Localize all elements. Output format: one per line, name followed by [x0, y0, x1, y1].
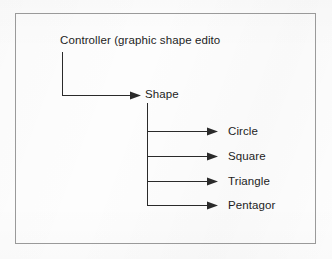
- node-controller-label: Controller (graphic shape edito: [60, 35, 220, 47]
- node-square-label: Square: [228, 151, 266, 163]
- node-pentagon-label: Pentagor: [228, 200, 275, 212]
- diagram-page: Controller (graphic shape edito Shape Ci…: [0, 0, 332, 259]
- node-triangle-label: Triangle: [228, 176, 270, 188]
- node-shape-label: Shape: [145, 89, 179, 101]
- node-circle-label: Circle: [228, 126, 258, 138]
